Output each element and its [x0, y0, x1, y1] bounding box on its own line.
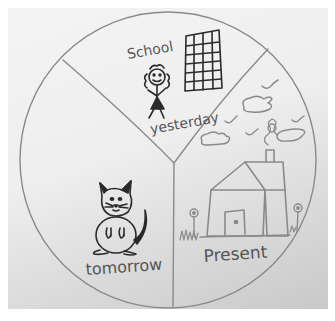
- present-label: Present: [203, 242, 268, 266]
- timeline-circle: [20, 12, 316, 308]
- tomorrow-label: tomorrow: [85, 255, 163, 279]
- birds-icon: [225, 80, 304, 135]
- cat-icon: [94, 181, 147, 255]
- school-label: School: [126, 38, 175, 62]
- house-icon: [200, 150, 290, 237]
- grass-icon: [180, 226, 296, 240]
- school-building-icon: [185, 30, 222, 91]
- section-present: Present: [180, 80, 305, 266]
- drawing-canvas: School yesterday: [0, 0, 335, 321]
- chimney-smoke-icon: [264, 119, 277, 145]
- section-tomorrow: tomorrow: [85, 181, 163, 279]
- girl-figure-icon: [145, 65, 170, 118]
- section-yesterday: School yesterday: [126, 30, 222, 137]
